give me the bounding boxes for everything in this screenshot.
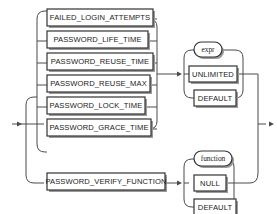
fn-left-bottom-curve bbox=[184, 199, 192, 207]
branch-label: UNLIMITED bbox=[192, 70, 234, 79]
exit-arrow bbox=[269, 122, 274, 127]
value-left-bottom-curve bbox=[184, 90, 192, 98]
branch-failed-login-attempts[interactable]: FAILED_LOGIN_ATTEMPTS bbox=[47, 9, 155, 28]
inner-left-top-curve bbox=[37, 11, 45, 19]
branch-label: PASSWORD_REUSE_MAX bbox=[50, 79, 147, 88]
outer-left-top-curve bbox=[26, 97, 34, 105]
branch-label: expr bbox=[201, 45, 215, 54]
branch-label: PASSWORD_LIFE_TIME bbox=[53, 35, 141, 44]
exit-merge-bottom-curve bbox=[250, 173, 258, 183]
branch-password-reuse-max[interactable]: PASSWORD_REUSE_MAX bbox=[47, 75, 152, 94]
value-branch-group: expr UNLIMITED DEFAULT bbox=[189, 42, 239, 108]
branch-password-life-time[interactable]: PASSWORD_LIFE_TIME bbox=[47, 31, 150, 50]
branch-password-lock-time[interactable]: PASSWORD_LOCK_TIME bbox=[47, 97, 147, 116]
branch-null[interactable]: NULL bbox=[194, 175, 228, 193]
fn-left-top-curve bbox=[184, 159, 192, 167]
syntax-diagram-canvas: FAILED_LOGIN_ATTEMPTS PASSWORD_LIFE_TIME… bbox=[0, 0, 277, 214]
branch-label: FAILED_LOGIN_ATTEMPTS bbox=[50, 13, 150, 22]
value-left-top-curve bbox=[184, 50, 192, 58]
inner-left-bottom-curve bbox=[37, 144, 45, 152]
branch-label: PASSWORD_GRACE_TIME bbox=[49, 123, 148, 132]
value-right-top-curve bbox=[235, 50, 243, 58]
branch-unlimited[interactable]: UNLIMITED bbox=[189, 66, 239, 84]
branch-default-value[interactable]: DEFAULT bbox=[194, 90, 238, 108]
branch-label: DEFAULT bbox=[198, 203, 233, 212]
branch-password-reuse-time[interactable]: PASSWORD_REUSE_TIME bbox=[47, 53, 155, 72]
branch-expr[interactable]: expr bbox=[194, 42, 224, 59]
function-group-arrow bbox=[177, 181, 182, 186]
branch-password-verify-function[interactable]: PASSWORD_VERIFY_FUNCTION bbox=[45, 173, 167, 192]
railroad-diagram: FAILED_LOGIN_ATTEMPTS PASSWORD_LIFE_TIME… bbox=[0, 0, 277, 214]
branch-label: DEFAULT bbox=[198, 94, 233, 103]
branch-label: PASSWORD_REUSE_TIME bbox=[51, 57, 149, 66]
outer-left-bottom-curve bbox=[26, 175, 34, 183]
branch-label: PASSWORD_VERIFY_FUNCTION bbox=[45, 177, 166, 186]
value-group-arrow bbox=[177, 72, 182, 77]
parameter-branch-group: FAILED_LOGIN_ATTEMPTS PASSWORD_LIFE_TIME… bbox=[47, 9, 155, 138]
branch-default-function[interactable]: DEFAULT bbox=[194, 199, 238, 214]
entry-arrow bbox=[17, 122, 22, 127]
branch-function[interactable]: function bbox=[194, 151, 234, 168]
branch-label: NULL bbox=[200, 179, 220, 188]
branch-password-grace-time[interactable]: PASSWORD_GRACE_TIME bbox=[47, 119, 153, 138]
branch-label: function bbox=[201, 154, 226, 163]
branch-label: PASSWORD_LOCK_TIME bbox=[50, 101, 143, 110]
